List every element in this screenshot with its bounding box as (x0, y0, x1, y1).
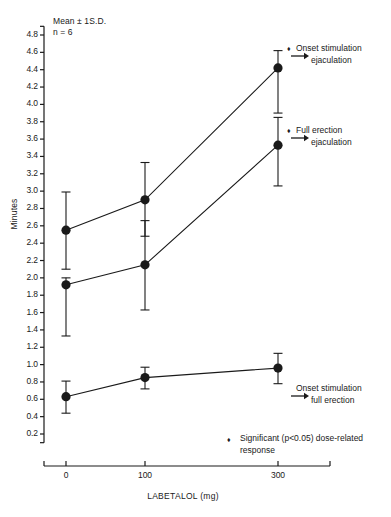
footnote-diamond-icon: ♦ (227, 434, 231, 446)
data-point-marker (140, 195, 149, 204)
series-line-1 (66, 145, 278, 285)
footnote-text: Significant (p<0.05) dose-related respon… (240, 433, 363, 455)
arrow-icon-0 (291, 50, 309, 62)
significance-footnote: ♦Significant (p<0.05) dose-related respo… (240, 433, 390, 456)
chart-figure: Mean ± 1S.D. n = 6 Minutes 4.84.64.44.24… (0, 0, 391, 517)
data-point-marker (273, 363, 282, 372)
data-point-marker (61, 392, 70, 401)
arrow-icon-2 (291, 390, 309, 402)
arrow-icon-1 (291, 132, 309, 144)
series-line-0 (66, 68, 278, 230)
data-point-marker (273, 63, 282, 72)
data-point-marker (140, 373, 149, 382)
data-point-marker (61, 226, 70, 235)
data-point-marker (140, 260, 149, 269)
series-line-2 (66, 368, 278, 397)
data-point-marker (273, 141, 282, 150)
data-point-marker (61, 280, 70, 289)
x-axis-title: LABETALOL (mg) (103, 491, 263, 501)
